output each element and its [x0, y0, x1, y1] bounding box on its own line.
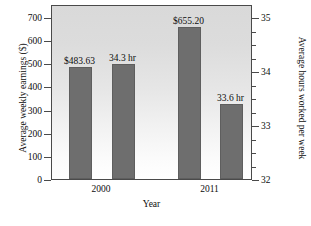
- bar-value-label: 34.3 hr: [93, 53, 153, 63]
- bar: [69, 67, 92, 179]
- x-axis-group-label: 2011: [180, 184, 240, 195]
- bar: [220, 104, 243, 179]
- y-axis-right-minor-tick: [252, 140, 256, 141]
- x-axis-title: Year: [51, 199, 252, 210]
- y-axis-left-tick: [44, 111, 51, 112]
- y-axis-right-minor-tick: [252, 153, 256, 154]
- y-axis-right-tick-label: 32: [261, 175, 283, 185]
- y-axis-left-tick: [44, 180, 51, 181]
- y-axis-right-tick: [252, 18, 259, 19]
- x-axis-group-label: 2000: [71, 184, 131, 195]
- y-axis-left-tick: [44, 41, 51, 42]
- y-axis-right-minor-tick: [252, 59, 256, 60]
- bar: [112, 64, 135, 179]
- y-axis-left-tick: [44, 134, 51, 135]
- y-axis-left-tick: [44, 87, 51, 88]
- y-axis-right-tick-label: 34: [261, 67, 283, 77]
- y-axis-right-tick-label: 35: [261, 13, 283, 23]
- y-axis-right-tick: [252, 126, 259, 127]
- y-axis-left-tick: [44, 157, 51, 158]
- y-axis-right-tick-label: 33: [261, 121, 283, 131]
- y-axis-right-minor-tick: [252, 167, 256, 168]
- y-axis-right-minor-tick: [252, 32, 256, 33]
- y-axis-right-title: Average hours worked per week: [297, 18, 307, 178]
- bar: [178, 27, 201, 179]
- y-axis-right-minor-tick: [252, 113, 256, 114]
- bar-chart: 0100200300400500600700 Average weekly ea…: [0, 0, 311, 226]
- y-axis-right-minor-tick: [252, 45, 256, 46]
- y-axis-right-tick: [252, 180, 259, 181]
- y-axis-left-title: Average weekly earnings ($): [18, 18, 28, 178]
- y-axis-left-tick: [44, 18, 51, 19]
- bar-value-label: $655.20: [159, 16, 219, 26]
- bar-value-label: 33.6 hr: [201, 93, 261, 103]
- y-axis-right-tick: [252, 72, 259, 73]
- y-axis-right-minor-tick: [252, 86, 256, 87]
